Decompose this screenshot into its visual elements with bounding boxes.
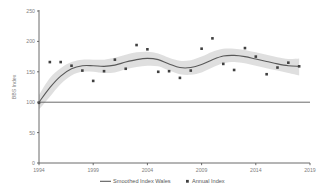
chart-legend: Smoothed Index WalesAnnual Index: [100, 178, 225, 184]
annual-index-point: [179, 77, 182, 80]
x-axis-tick-label: 2014: [250, 167, 262, 173]
annual-index-point: [255, 55, 258, 58]
y-axis-tick-label: 100: [26, 99, 35, 105]
x-axis-tick-label: 1994: [33, 167, 45, 173]
annual-index-point: [276, 66, 279, 69]
y-axis-title-text: BBS Index: [11, 74, 17, 99]
annual-index-point: [59, 61, 62, 64]
annual-index-point: [222, 63, 225, 66]
annual-index-point: [211, 37, 214, 40]
legend-label: Smoothed Index Wales: [113, 178, 171, 184]
y-axis-tick-label: 250: [26, 8, 35, 14]
annual-index-point: [244, 47, 247, 50]
confidence-band-area: [39, 48, 299, 109]
y-axis-title: BBS Index: [11, 74, 17, 99]
annual-index-point: [81, 69, 84, 72]
annual-index-point: [287, 61, 290, 64]
annual-index-point: [124, 67, 127, 70]
y-axis-tick-label: 50: [29, 130, 35, 136]
annual-index-point: [298, 65, 301, 68]
annual-index-point: [49, 61, 52, 64]
x-axis-tick-label: 2019: [304, 167, 316, 173]
confidence-band: [39, 48, 299, 109]
annual-index-point: [103, 70, 106, 73]
y-axis-tick-labels: 050100150200250: [26, 8, 39, 166]
axes: [39, 10, 310, 163]
annual-index-point: [92, 80, 95, 83]
annual-index-point: [200, 47, 203, 50]
y-axis-tick-label: 200: [26, 38, 35, 44]
legend-square-marker: [186, 180, 189, 183]
annual-index-point: [114, 58, 117, 61]
y-axis-tick-label: 150: [26, 69, 35, 75]
x-axis-tick-label: 2009: [196, 167, 208, 173]
x-axis-tick-label: 1999: [87, 167, 99, 173]
legend-label: Annual Index: [192, 178, 225, 184]
annual-index-point: [157, 71, 160, 74]
x-axis-tick-labels: 199419992004200920142019: [33, 163, 316, 173]
annual-index-point: [146, 48, 149, 51]
x-axis-tick-label: 2004: [142, 167, 154, 173]
annual-index-point: [168, 70, 171, 73]
y-axis-tick-label: 0: [32, 160, 35, 166]
annual-index-point: [265, 73, 268, 76]
annual-index-point: [70, 64, 73, 67]
annual-index-point: [189, 69, 192, 72]
annual-index-point: [233, 69, 236, 72]
bbs-index-line-chart: 050100150200250 199419992004200920142019…: [0, 0, 320, 194]
annual-index-point: [135, 44, 138, 47]
chart-container: 050100150200250 199419992004200920142019…: [0, 0, 320, 194]
